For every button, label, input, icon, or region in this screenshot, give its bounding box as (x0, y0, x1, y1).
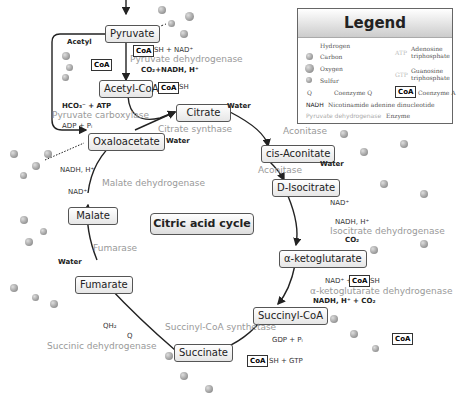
label-sh: SH (179, 83, 189, 91)
molecule-icon (370, 246, 378, 254)
molecule-icon (420, 190, 428, 198)
molecule-icon (330, 315, 338, 323)
legend-nadh: Nicotinamide adenine dinucleotide (328, 101, 435, 108)
legend-carbon: Carbon (320, 53, 342, 60)
molecule-icon (380, 180, 388, 188)
legend-gtp: Guanosine triphosphate (411, 67, 451, 81)
coa-box: CoA (247, 355, 268, 367)
label-qh2: QH₂ (103, 322, 117, 330)
node-acetyl-coa[interactable]: Acetyl-CoA (99, 80, 153, 98)
molecule-icon (185, 12, 194, 21)
molecule-icon (180, 30, 188, 38)
node-citrate[interactable]: Citrate (176, 104, 231, 122)
molecule-icon (40, 228, 47, 235)
molecule-icon (10, 150, 18, 158)
molecule-icon (10, 284, 18, 292)
molecule-icon (66, 64, 73, 71)
label-nadh-h: NADH, H⁺ (335, 218, 369, 226)
legend-atp: Adenosine triphosphate (411, 45, 451, 59)
legend-q-symbol: Q (307, 89, 312, 96)
legend-title: Legend (298, 9, 452, 38)
coa-box: CoA (392, 333, 413, 345)
molecule-icon (168, 20, 175, 27)
enzyme-malate-dehydrogenase: Malate dehydrogenase (102, 178, 205, 188)
molecule-icon (20, 216, 28, 224)
molecule-icon (32, 162, 40, 170)
molecule-icon (372, 345, 379, 352)
molecule-icon (205, 385, 213, 393)
carbon-icon (306, 53, 313, 60)
label-nadh-co2: NADH, H⁺ + CO₂ (313, 297, 376, 305)
enzyme-isocitrate-dehydrogenase: Isocitrate dehydrogenase (330, 226, 445, 236)
legend-sulfur: Sulfur (320, 77, 339, 84)
molecule-icon (165, 352, 173, 360)
legend-gtp-symbol: GTP (395, 71, 408, 78)
enzyme-fumarase: Fumarase (93, 243, 137, 253)
molecule-icon (350, 330, 358, 338)
enzyme-citrate-synthase: Citrate synthase (158, 124, 232, 134)
diagram-title: Citric acid cycle (150, 213, 254, 235)
label-acetyl: Acetyl (67, 38, 92, 46)
label-nad: NAD⁺ (68, 188, 87, 196)
molecule-icon (44, 150, 52, 158)
legend-oxygen: Oxygen (320, 65, 343, 72)
label-water: Water (166, 137, 190, 145)
legend-coa-symbol: CoA (395, 86, 416, 98)
coa-box: CoA (133, 45, 154, 57)
molecule-icon (32, 294, 39, 301)
node-oxaloacetate[interactable]: Oxaloacetate (88, 133, 165, 151)
node-malate[interactable]: Malate (68, 207, 118, 225)
molecule-icon (360, 148, 368, 156)
sulfur-icon (306, 77, 312, 83)
node-d-isocitrate[interactable]: D-Isocitrate (272, 179, 340, 197)
label-gdp-pi: GDP + Pᵢ (272, 336, 303, 344)
label-hco3-atp: HCO₃⁻ + ATP (62, 102, 111, 110)
molecule-icon (50, 300, 58, 308)
node-fumarate[interactable]: Fumarate (75, 276, 133, 294)
label-nad: NAD⁺ (330, 199, 349, 207)
node-succinate[interactable]: Succinate (174, 344, 233, 362)
label-water: Water (227, 102, 251, 110)
enzyme-pyruvate-carboxylase: Pyruvate carboxylase (52, 110, 149, 120)
label-sh-nad: SH + NAD⁺ (154, 46, 193, 54)
molecule-icon (62, 52, 70, 60)
label-sh: SH (370, 277, 380, 285)
legend-coenzyme-q: Coenzyme Q (334, 89, 372, 96)
molecule-icon (25, 238, 33, 246)
molecule-icon (158, 6, 166, 14)
legend: Legend Hydrogen Carbon Oxygen Sulfur Q C… (297, 8, 453, 124)
molecule-icon (20, 172, 27, 179)
molecule-icon (420, 240, 428, 248)
label-co2-nadh: CO₂+NADH, H⁺ (141, 66, 199, 74)
coa-box: CoA (158, 82, 179, 94)
legend-coenzyme-a: Coenzyme A (418, 89, 456, 96)
oxygen-icon (305, 64, 314, 73)
label-water: Water (320, 160, 344, 168)
legend-hydrogen: Hydrogen (320, 42, 350, 49)
label-adp-pi: ADP + Pᵢ (62, 122, 92, 130)
legend-atp-symbol: ATP (395, 49, 407, 56)
legend-nadh-symbol: NADH (306, 101, 324, 108)
label-sh-gtp: SH + GTP (269, 357, 303, 365)
legend-enzyme-symbol: Pyruvate dehydrogenase (306, 112, 381, 119)
molecule-icon (180, 372, 188, 380)
enzyme-succinyl-coa-synthetase: Succinyl-CoA synthetase (165, 322, 276, 332)
label-q: Q (127, 332, 133, 340)
molecule-icon (400, 140, 408, 148)
molecule-icon (62, 74, 69, 81)
molecule-icon (340, 130, 348, 138)
enzyme-aconitase-2: Aconitase (258, 165, 302, 175)
node-pyruvate[interactable]: Pyruvate (105, 25, 160, 43)
legend-enzyme: Enzyme (386, 112, 410, 119)
enzyme-akg-dehydrogenase: α-ketoglutarate dehydrogenase (310, 286, 452, 296)
enzyme-succinic-dehydrogenase: Succinic dehydrogenase (47, 341, 157, 351)
label-nadh-h: NADH, H⁺ (60, 166, 94, 174)
coa-box: CoA (349, 275, 370, 287)
coa-box: CoA (91, 59, 112, 71)
label-water: Water (58, 258, 82, 266)
node-a-ketoglutarate[interactable]: α-ketoglutarate (279, 250, 367, 268)
enzyme-aconitase-1: Aconitase (283, 126, 327, 136)
label-co2: CO₂ (345, 236, 359, 244)
